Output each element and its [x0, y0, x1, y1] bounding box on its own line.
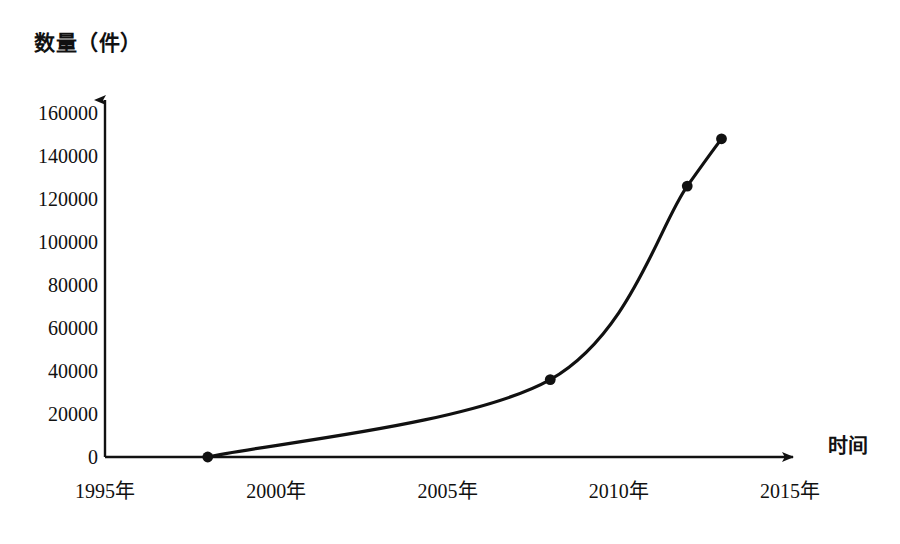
- data-point-marker: [545, 374, 556, 385]
- plot-area: [0, 0, 900, 544]
- data-point-marker: [682, 181, 693, 192]
- data-point-marker: [716, 133, 727, 144]
- data-point-markers: [202, 133, 727, 462]
- data-point-marker: [202, 452, 213, 463]
- data-series-curve: [208, 139, 722, 457]
- line-chart: 数量（件） 时间 0200004000060000800001000001200…: [0, 0, 900, 544]
